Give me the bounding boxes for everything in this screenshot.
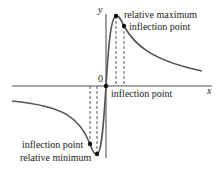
relative-minimum-label: relative minimum	[20, 153, 91, 163]
function-graph: y x 0 relative maximum inflection point …	[0, 0, 223, 174]
relative-maximum-point	[114, 14, 118, 18]
relative-minimum-point	[95, 152, 99, 156]
inflection-origin-label: inflection point	[111, 89, 172, 99]
inflection-upper-point	[122, 24, 126, 28]
inflection-origin-point	[104, 84, 108, 88]
relative-maximum-label: relative maximum	[124, 10, 197, 20]
inflection-lower-point	[88, 142, 92, 146]
y-axis-label: y	[98, 5, 102, 15]
origin-label: 0	[98, 74, 103, 84]
inflection-upper-label: inflection point	[129, 22, 190, 32]
inflection-lower-label: inflection point	[22, 140, 83, 150]
x-axis-label: x	[207, 86, 211, 96]
